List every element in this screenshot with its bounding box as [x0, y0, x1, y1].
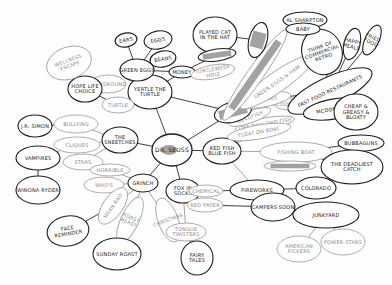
node-center[interactable]: DR. SEUSS — [152, 134, 192, 166]
node-label: RED PAPER — [190, 202, 220, 208]
node-label: BUBBAGUNS — [344, 140, 378, 146]
node-label: BULLYING — [63, 121, 89, 127]
node-eggs[interactable]: EGGS — [143, 29, 174, 52]
node-baby[interactable]: BABY — [286, 23, 320, 35]
node-grinch[interactable]: GRINCH — [128, 174, 158, 192]
node-label: HORRIBLE — [96, 167, 123, 173]
node-redpaper[interactable]: RED PAPER — [187, 198, 223, 212]
node-tonguetw[interactable]: TONGUETWISTERS — [166, 223, 206, 241]
node-face[interactable]: FACEREMINDER — [45, 213, 92, 250]
node-label: VAMPIRES — [25, 155, 52, 161]
node-turtlet[interactable]: TURTLE — [102, 97, 134, 113]
node-label: SUNDAY ROAST — [96, 251, 138, 257]
node-ears[interactable]: EARS — [114, 31, 138, 49]
node-jr[interactable]: J.R. SIMON — [18, 115, 52, 137]
node-chemical[interactable]: CHEMICAL — [189, 185, 223, 197]
node-bubbaguns[interactable]: BUBBAGUNS — [338, 135, 384, 151]
node-label: PICKERS — [288, 248, 310, 254]
node-label: CATCH — [343, 166, 361, 172]
node-label: POWER STARS — [324, 239, 362, 245]
node-sneetches[interactable]: THESNEETCHES — [102, 127, 138, 153]
node-power[interactable]: POWER STARS — [321, 229, 365, 255]
node-campers[interactable]: CAMPERS SOON — [251, 193, 295, 221]
node-label: IN THE HAT — [200, 34, 231, 40]
node-junkyard[interactable]: JUNKYARD — [293, 202, 359, 228]
node-cliques[interactable]: CLIQUES — [54, 137, 100, 153]
node-label: BLOATY — [346, 114, 367, 120]
node-label: WINONA RYDER — [17, 187, 59, 193]
node-label: CAMPERS SOON — [252, 204, 295, 210]
node-label: TURTLE — [107, 102, 128, 108]
node-label: BABY — [296, 26, 311, 32]
node-fishing[interactable]: FISHING BOAT — [260, 142, 332, 162]
node-label: CHOICE — [75, 88, 96, 94]
node-happy[interactable]: HAPPYMEALS — [339, 26, 365, 62]
node-fairy[interactable]: FAIRYTALES — [181, 241, 213, 275]
nodes: DR. SEUSSYERTLE THETURTLETHESNEETCHESGRI… — [16, 12, 386, 275]
scribble-mark — [271, 164, 310, 169]
node-horrible[interactable]: HORRIBLE — [90, 164, 130, 176]
node-bullying[interactable]: BULLYING — [54, 115, 98, 133]
node-label: TWISTERS — [171, 231, 199, 237]
node-label: COLORADO — [301, 185, 331, 191]
node-vampires[interactable]: VAMPIRES — [16, 146, 60, 170]
node-deadliest[interactable]: THE DEADLIESTCATCH — [321, 150, 383, 184]
node-label: FIREWORKS — [241, 187, 273, 193]
node-label: CLIQUES — [65, 142, 88, 148]
node-label: STARS — [75, 159, 92, 165]
node-sunday[interactable]: SUNDAY ROAST — [93, 238, 141, 270]
node-label: AL SHARPTON — [286, 17, 324, 23]
node-greeneggs[interactable]: GREEN EGGS — [119, 59, 154, 81]
node-cheap[interactable]: CHEAP &GREASY &BLOATY — [334, 94, 378, 130]
mind-map: DR. SEUSSYERTLE THETURTLETHESNEETCHESGRI… — [0, 0, 392, 285]
node-colorado[interactable]: COLORADO — [296, 177, 336, 199]
node-label: WHO'S — [95, 182, 113, 188]
node-pkt[interactable]: PLAYED CATIN THE HAT — [193, 17, 237, 53]
node-label: CHEMICAL — [192, 188, 220, 194]
node-label: DR. SEUSS — [155, 146, 189, 153]
node-label: FISHING BOAT — [277, 149, 315, 155]
node-label: BLUE FISH — [208, 150, 235, 156]
node-redfish[interactable]: RED FISHBLUE FISH — [203, 138, 241, 164]
node-label: TALES — [188, 257, 205, 263]
node-label: SNEETCHES — [104, 139, 135, 145]
node-american[interactable]: AMERICANPICKERS — [277, 236, 321, 262]
node-scribbled2[interactable] — [264, 161, 316, 171]
mind-map-canvas: DR. SEUSSYERTLE THETURTLETHESNEETCHESGRI… — [0, 0, 392, 285]
node-label: TURTLE — [139, 91, 160, 97]
node-label: GRINCH — [132, 180, 153, 186]
node-label: JUNKYARD — [312, 212, 340, 218]
node-label: J.R. SIMON — [20, 123, 49, 129]
node-label: GREEN EGGS — [119, 67, 154, 73]
node-label: MONEY — [172, 69, 192, 75]
node-winona[interactable]: WINONA RYDER — [16, 176, 60, 204]
node-hope[interactable]: HOPE LIFECHOICE — [68, 76, 102, 102]
